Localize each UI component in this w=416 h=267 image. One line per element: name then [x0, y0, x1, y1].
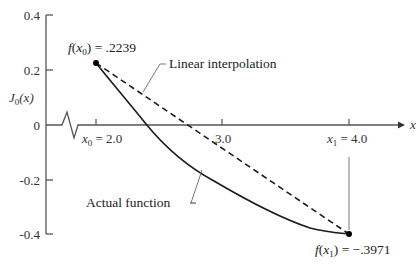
f-x1-annotation: f(x1) = −.3971	[315, 242, 391, 259]
x-axis-arrow-icon	[398, 122, 405, 129]
point-x0	[93, 60, 99, 66]
x-ticks	[96, 119, 349, 125]
x-tick-x1: x1 = 4.0	[326, 131, 367, 148]
linear-interpolation-label: Linear interpolation	[169, 56, 277, 71]
y-tick-neg0.2: -0.2	[19, 173, 40, 188]
y-tick-0: 0	[34, 118, 41, 133]
y-tick-0.2: 0.2	[24, 63, 40, 78]
actual-function-leader	[190, 170, 202, 203]
point-x1	[346, 231, 352, 237]
y-tick-labels: 0.4 0.2 0 -0.2 -0.4	[19, 8, 40, 242]
x-tick-x0: x0 = 2.0	[81, 131, 122, 148]
y-tick-neg0.4: -0.4	[19, 227, 40, 242]
y-tick-0.4: 0.4	[24, 8, 41, 23]
actual-function-label: Actual function	[86, 195, 171, 210]
y-axis-label: J0(x)	[9, 90, 34, 107]
x-axis-label: x	[409, 117, 416, 132]
j0-interpolation-chart: 0.4 0.2 0 -0.2 -0.4 J0(x) x x0 = 2.0 3.0…	[0, 0, 416, 267]
linear-interpolation-leader	[143, 64, 166, 92]
x-tick-3: 3.0	[215, 131, 231, 146]
f-x0-annotation: f(x0) = .2239	[68, 40, 136, 57]
